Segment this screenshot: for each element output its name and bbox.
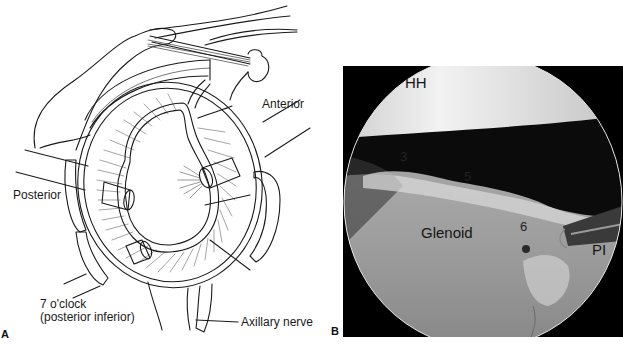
label-posterior: Posterior bbox=[13, 189, 61, 202]
panel-a-illustration: Anterior Posterior 7 o'clock (posterior … bbox=[0, 0, 320, 344]
shoulder-glenoid-drawing bbox=[0, 0, 320, 344]
label-posterior-inferior-pi: PI bbox=[592, 241, 606, 258]
label-posterior-inferior: (posterior inferior) bbox=[40, 311, 135, 324]
panel-letter-a: A bbox=[1, 328, 9, 340]
label-position-5: 5 bbox=[464, 169, 471, 184]
label-position-3: 3 bbox=[400, 149, 407, 164]
panel-b-arthroscopy-photo: HH Glenoid PI 3 5 6 bbox=[343, 66, 623, 337]
label-humeral-head: HH bbox=[405, 74, 427, 91]
arthroscope-view bbox=[343, 66, 623, 337]
panel-letter-b: B bbox=[331, 325, 339, 337]
label-anterior: Anterior bbox=[262, 98, 304, 111]
label-position-6: 6 bbox=[520, 219, 527, 234]
label-axillary-nerve: Axillary nerve bbox=[241, 316, 313, 329]
label-glenoid: Glenoid bbox=[421, 224, 473, 241]
